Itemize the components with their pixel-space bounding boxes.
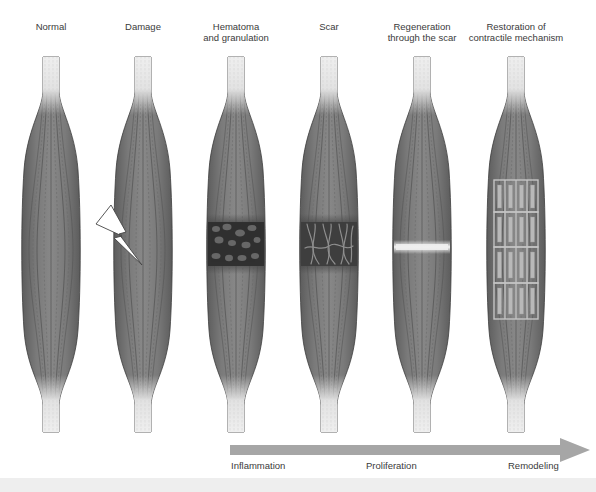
muscle-diagram xyxy=(0,0,596,492)
muscle-normal xyxy=(21,57,81,432)
footer-band xyxy=(0,478,596,492)
phase-label-proliferation: Proliferation xyxy=(366,460,417,471)
muscle-scar xyxy=(297,57,361,432)
muscle-regeneration xyxy=(392,57,452,432)
timeline-arrow xyxy=(230,438,590,462)
phase-label-inflammation: Inflammation xyxy=(231,460,285,471)
muscle-hematoma xyxy=(204,57,268,432)
phase-label-remodeling: Remodeling xyxy=(508,460,559,471)
muscle-restoration xyxy=(486,57,546,432)
